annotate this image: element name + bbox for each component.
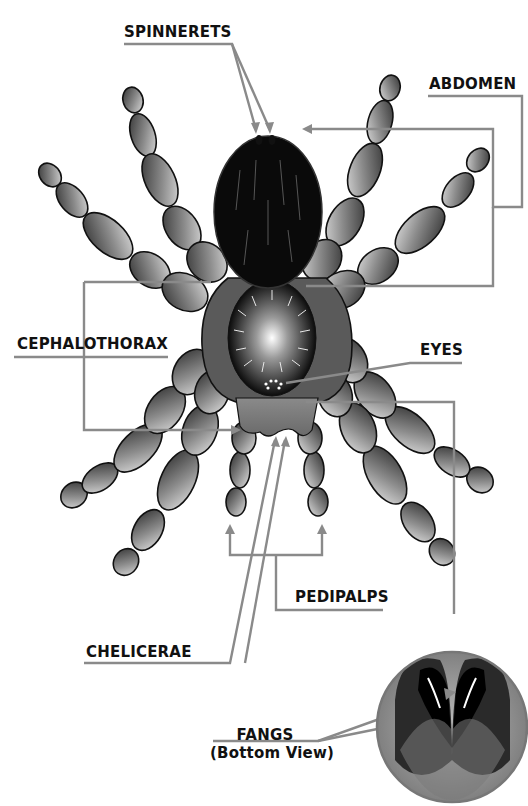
spinnerets-leader-2	[232, 44, 270, 130]
spinneret-right	[269, 135, 276, 145]
spider-illustration	[0, 0, 528, 806]
spinneret-left	[256, 135, 263, 145]
label-fangs-title: FANGS	[210, 726, 320, 744]
tarantula-anatomy-diagram: SPINNERETS ABDOMEN CEPHALOTHORAX EYES PE…	[0, 0, 528, 806]
label-pedipalps: PEDIPALPS	[295, 590, 389, 605]
pedipalp-left	[226, 422, 256, 516]
abdomen-leader	[308, 96, 522, 207]
pedipalps-bracket	[230, 530, 322, 555]
chelicerae-shape	[236, 398, 318, 436]
label-eyes: EYES	[420, 343, 463, 358]
abdomen	[214, 135, 322, 288]
chelicerae-leader-2	[245, 440, 285, 663]
label-spinnerets: SPINNERETS	[124, 25, 232, 40]
label-fangs-subtitle: (Bottom View)	[210, 744, 320, 762]
label-abdomen: ABDOMEN	[429, 77, 516, 92]
label-cephalothorax: CEPHALOTHORAX	[17, 337, 168, 352]
label-chelicerae: CHELICERAE	[86, 645, 192, 660]
label-fangs: FANGS (Bottom View)	[210, 726, 320, 762]
